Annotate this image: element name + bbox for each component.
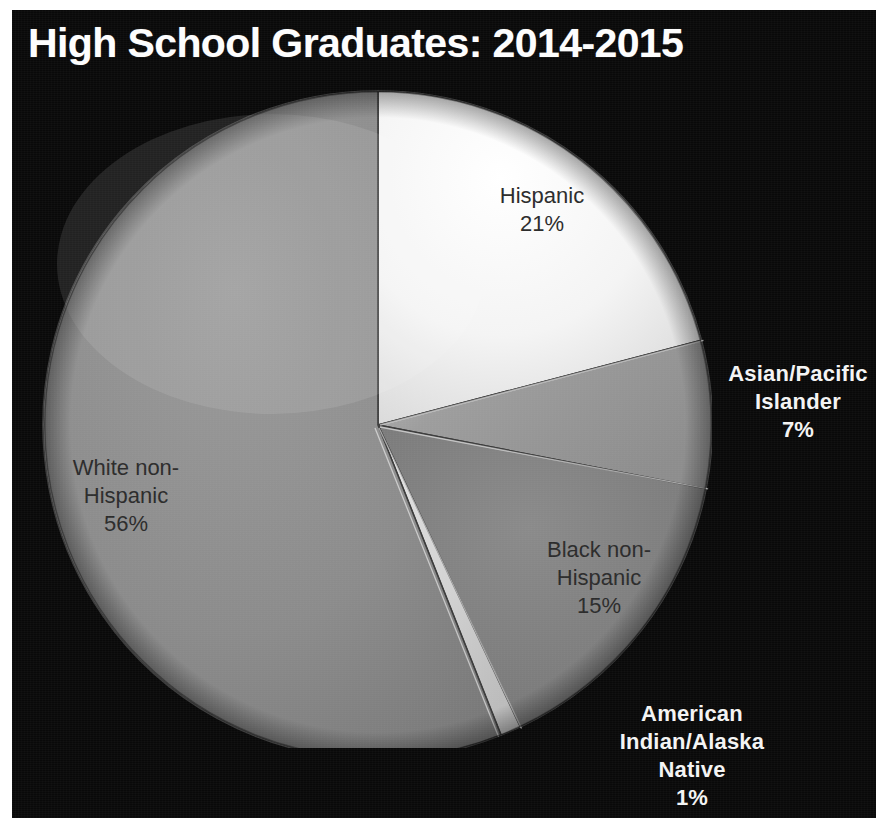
- chart-page: High School Graduates: 2014-2015: [0, 0, 888, 831]
- chart-panel: High School Graduates: 2014-2015: [12, 10, 876, 818]
- pie-rim-shading: [44, 91, 712, 748]
- pie-label-asian-pacific-islander: Asian/Pacific Islander 7%: [702, 360, 876, 444]
- pie-svg: [22, 84, 712, 748]
- page-title: High School Graduates: 2014-2015: [28, 20, 683, 67]
- pie-chart: [22, 84, 712, 748]
